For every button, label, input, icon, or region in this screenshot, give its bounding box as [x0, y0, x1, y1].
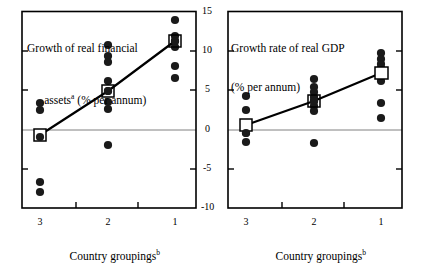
left-scatter-group-1 [171, 16, 179, 82]
data-point [377, 114, 385, 122]
data-point [36, 178, 44, 186]
left-panel-title-line2: assetsa (% per annum) [27, 81, 146, 120]
footnote-marker-b: b [156, 248, 160, 257]
left-x-axis-caption-text: Country groupings [70, 250, 157, 262]
right-panel-title: Growth rate of real GDP (% per annum) [231, 16, 345, 120]
data-point [242, 129, 250, 137]
data-point [242, 138, 250, 146]
right-x-tick-label-1: 1 [371, 216, 391, 227]
right-x-tick-label-2: 2 [304, 216, 324, 227]
y-tick-label-10: 10 [202, 44, 224, 55]
footnote-marker-b-right: b [362, 248, 366, 257]
right-scatter-group-1 [377, 49, 385, 122]
left-panel-title-units: (% per annum) [74, 94, 146, 106]
y-tick-label-minus10: -10 [201, 201, 223, 212]
right-x-ticks [282, 202, 344, 208]
right-panel-title-line1: Growth rate of real GDP [231, 42, 345, 55]
right-x-axis-caption: Country groupingsb [240, 238, 390, 267]
data-point [171, 16, 179, 24]
left-x-tick-label-1: 1 [165, 216, 185, 227]
data-point [310, 139, 318, 147]
left-x-tick-label-2: 2 [98, 216, 118, 227]
data-point [171, 37, 179, 45]
left-x-ticks [76, 202, 138, 208]
left-panel-title-assets: assets [44, 94, 71, 106]
data-point [171, 74, 179, 82]
right-x-tick-label-3: 3 [236, 216, 256, 227]
y-tick-label-15: 15 [202, 5, 224, 16]
left-panel-title-line1: Growth of real financial [27, 42, 146, 55]
right-panel-title-line2: (% per annum) [231, 81, 345, 94]
left-x-tick-label-3: 3 [30, 216, 50, 227]
data-point [377, 99, 385, 107]
y-tick-label-5: 5 [205, 83, 227, 94]
data-point [171, 62, 179, 70]
figure-container: Growth of real financial assetsa (% per … [0, 0, 424, 267]
left-x-axis-caption: Country groupingsb [34, 238, 184, 267]
y-tick-label-minus5: -5 [203, 162, 225, 173]
left-panel-title: Growth of real financial assetsa (% per … [27, 16, 146, 146]
mean-marker [375, 67, 388, 79]
right-y-ticks-right [396, 51, 402, 169]
right-x-axis-caption-text: Country groupings [276, 250, 363, 262]
data-point [36, 188, 44, 196]
y-tick-label-0: 0 [205, 123, 227, 134]
left-y-ticks-right [190, 51, 196, 169]
